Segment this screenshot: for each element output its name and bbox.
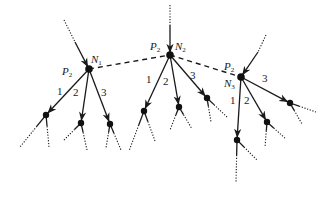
priority-label-n2: P2 [149, 40, 161, 54]
branch-number-label: 1 [146, 73, 152, 85]
child-node-dot [287, 100, 293, 106]
leaf-edge-dotted [294, 110, 302, 124]
branch-number-label: 2 [73, 86, 79, 98]
branch-number-label: 3 [262, 72, 268, 84]
child-node-dot [204, 95, 210, 101]
priority-label-n3: P2 [223, 60, 235, 74]
leaf-edge-dotted [114, 133, 121, 150]
branch-number-label: 3 [190, 69, 196, 81]
branch-number-label: 2 [244, 94, 250, 106]
child-node-dot [43, 112, 49, 118]
child-node-dot [176, 104, 182, 110]
leaf-edge-dotted [214, 105, 227, 117]
leaf-edge-dotted [244, 147, 257, 160]
leaf-edge-dotted [106, 132, 109, 148]
tree-n3 [234, 35, 316, 183]
leaf-edge-dotted [83, 132, 87, 150]
leaf-edge-dotted [170, 115, 176, 130]
leaf-edge-dotted [148, 122, 155, 142]
branch-arrow-2 [170, 55, 178, 104]
network-tree-diagram: N1P2123N2P2123N3P2123 [0, 0, 330, 197]
leaf-edge-dotted [63, 129, 75, 141]
node-trees [20, 5, 316, 183]
branch-number-label: 1 [230, 94, 236, 106]
child-node-dot [234, 137, 240, 143]
node-dot-n2 [166, 51, 174, 59]
priority-label-n1: P2 [61, 65, 73, 79]
child-node-dot [264, 119, 270, 125]
upstream-dotted-edge [258, 35, 266, 52]
node-label-n3: N3 [223, 77, 235, 91]
upstream-arrow-edge [75, 42, 88, 66]
leaf-edge-dotted [274, 128, 286, 139]
leaf-edge-dotted [20, 126, 37, 147]
node-dot-n3 [237, 73, 245, 81]
node-label-n1: N1 [90, 53, 102, 67]
leaf-edge-dotted [47, 126, 49, 147]
leaf-edge-dotted [265, 131, 266, 147]
tree-n1 [20, 20, 121, 150]
branch-number-label: 3 [101, 86, 107, 98]
child-node-dot [141, 108, 147, 114]
tree-n2 [129, 5, 227, 151]
upstream-dotted-edge [64, 20, 75, 42]
branch-number-label: 2 [163, 75, 169, 87]
child-node-dot [107, 121, 113, 127]
node-label-n2: N2 [174, 40, 186, 54]
upstream-arrow-edge [243, 52, 258, 75]
leaf-edge-dotted [184, 115, 192, 129]
branch-number-label: 1 [57, 85, 63, 97]
leaf-edge-dotted [208, 106, 211, 122]
leaf-edge-dotted [299, 106, 316, 112]
child-node-dot [78, 120, 84, 126]
leaf-edge-dotted [129, 125, 139, 151]
leaf-edge-dotted [236, 155, 237, 183]
node-dot-n1 [85, 65, 93, 73]
branch-arrow-1 [237, 77, 241, 137]
